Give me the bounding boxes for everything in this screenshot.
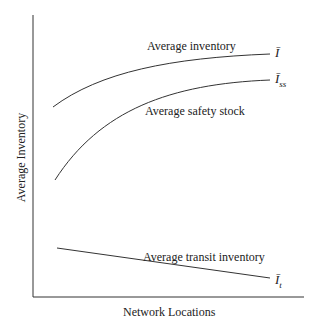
symbol-iss: Īss [275, 71, 286, 89]
average-inventory-curve [53, 54, 270, 107]
average-transit-inventory-label: Average transit inventory [143, 250, 265, 265]
average-safety-stock-curve [55, 80, 270, 180]
symbol-it: Īt [275, 272, 282, 290]
average-safety-stock-label: Average safety stock [145, 104, 245, 119]
average-inventory-label: Average inventory [147, 39, 236, 54]
symbol-i: Ī [275, 45, 279, 61]
y-axis-label: Average Inventory [14, 103, 29, 213]
x-axis-label: Network Locations [123, 305, 215, 320]
